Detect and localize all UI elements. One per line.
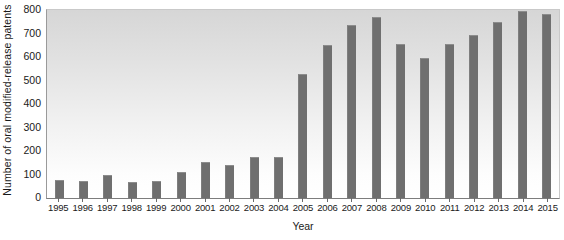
- x-axis-tick-label: 2006: [317, 202, 337, 213]
- y-axis-tick-label: 800: [23, 3, 41, 15]
- xlab-slot: 2012: [462, 202, 486, 216]
- x-axis-tick-label: 2013: [489, 202, 509, 213]
- bar-slot: [461, 10, 485, 198]
- x-axis-tick-label: 2014: [513, 202, 533, 213]
- y-axis-tick-label: 300: [23, 121, 41, 133]
- x-axis-tick-label: 1999: [146, 202, 166, 213]
- x-axis-tick-label: 2015: [537, 202, 557, 213]
- x-axis-tick-label: 2011: [440, 202, 460, 213]
- xlab-slot: 2007: [340, 202, 364, 216]
- xlab-slot: 2001: [193, 202, 217, 216]
- x-axis-tick-label: 2003: [244, 202, 264, 213]
- bar: [469, 35, 478, 198]
- y-axis-tick-label: 400: [23, 97, 41, 109]
- bar-slot: [193, 10, 217, 198]
- bar: [542, 14, 551, 198]
- x-axis-tick-label: 2004: [268, 202, 288, 213]
- bar: [396, 44, 405, 198]
- xlab-slot: 2005: [291, 202, 315, 216]
- xlab-slot: 1995: [46, 202, 70, 216]
- bar-slot: [340, 10, 364, 198]
- y-axis-tick-label: 0: [35, 191, 41, 203]
- bar: [372, 17, 381, 198]
- bar-series: [47, 10, 559, 198]
- bar-slot: [388, 10, 412, 198]
- xlab-slot: 2003: [242, 202, 266, 216]
- xlab-slot: 2010: [413, 202, 437, 216]
- bar-slot: [218, 10, 242, 198]
- x-axis-tick-label: 2007: [342, 202, 362, 213]
- xlab-slot: 2008: [364, 202, 388, 216]
- x-axis-tick-label: 2002: [219, 202, 239, 213]
- bar-slot: [291, 10, 315, 198]
- bar-slot: [510, 10, 534, 198]
- x-axis-tick-label: 2001: [195, 202, 215, 213]
- bar: [152, 181, 161, 198]
- bar-slot: [242, 10, 266, 198]
- bar-slot: [315, 10, 339, 198]
- xlab-slot: 1998: [119, 202, 143, 216]
- bar: [274, 157, 283, 198]
- xlab-slot: 2011: [438, 202, 462, 216]
- bar-slot: [47, 10, 71, 198]
- bar-slot: [266, 10, 290, 198]
- bar: [323, 45, 332, 198]
- bar: [103, 175, 112, 199]
- y-axis-tick-label: 500: [23, 74, 41, 86]
- y-axis-tick-label: 600: [23, 50, 41, 62]
- xlab-slot: 1999: [144, 202, 168, 216]
- bar: [225, 165, 234, 198]
- x-axis-tick-label: 1997: [97, 202, 117, 213]
- xlab-slot: 1997: [95, 202, 119, 216]
- y-axis-tick-label: 200: [23, 144, 41, 156]
- bar-slot: [486, 10, 510, 198]
- bar: [177, 172, 186, 198]
- bar: [420, 58, 429, 198]
- bar: [55, 180, 64, 198]
- x-axis-tick-label: 1998: [121, 202, 141, 213]
- xlab-slot: 2000: [168, 202, 192, 216]
- x-axis-title-text: Year: [292, 220, 313, 232]
- x-axis-title: Year: [46, 220, 560, 232]
- bar: [298, 74, 307, 198]
- bar: [79, 181, 88, 198]
- x-axis-tick-label: 2012: [464, 202, 484, 213]
- bar: [201, 162, 210, 198]
- bar: [347, 25, 356, 198]
- bar: [128, 182, 137, 198]
- x-axis-tick-label: 1995: [48, 202, 68, 213]
- y-axis-title: Number of oral modified-release patents: [0, 0, 14, 200]
- x-axis-tick-labels: 1995199619971998199920002001200220032004…: [46, 202, 560, 216]
- x-axis-tick-label: 2010: [415, 202, 435, 213]
- y-axis-tick-label: 100: [23, 168, 41, 180]
- x-axis-tick-label: 1996: [73, 202, 93, 213]
- xlab-slot: 2009: [389, 202, 413, 216]
- xlab-slot: 2014: [511, 202, 535, 216]
- bar-slot: [364, 10, 388, 198]
- plot-area: [46, 9, 560, 199]
- bar-slot: [169, 10, 193, 198]
- x-axis-tick-label: 2000: [170, 202, 190, 213]
- bar: [518, 11, 527, 198]
- bar-slot: [535, 10, 559, 198]
- xlab-slot: 2015: [535, 202, 559, 216]
- y-axis-tick-label: 700: [23, 27, 41, 39]
- xlab-slot: 2004: [266, 202, 290, 216]
- y-axis-title-text: Number of oral modified-release patents: [1, 4, 13, 195]
- bar-chart-figure: Number of oral modified-release patents …: [0, 0, 564, 240]
- bar-slot: [96, 10, 120, 198]
- bar: [250, 157, 259, 198]
- x-axis-tick-label: 2008: [366, 202, 386, 213]
- bar-slot: [145, 10, 169, 198]
- x-axis-tick-label: 2005: [293, 202, 313, 213]
- bar: [445, 44, 454, 198]
- x-axis-tick-label: 2009: [391, 202, 411, 213]
- bar-slot: [71, 10, 95, 198]
- xlab-slot: 2002: [217, 202, 241, 216]
- bar-slot: [413, 10, 437, 198]
- bar-slot: [120, 10, 144, 198]
- xlab-slot: 1996: [70, 202, 94, 216]
- xlab-slot: 2013: [486, 202, 510, 216]
- y-axis-tick-labels: 0100200300400500600700800: [14, 0, 44, 200]
- bar-slot: [437, 10, 461, 198]
